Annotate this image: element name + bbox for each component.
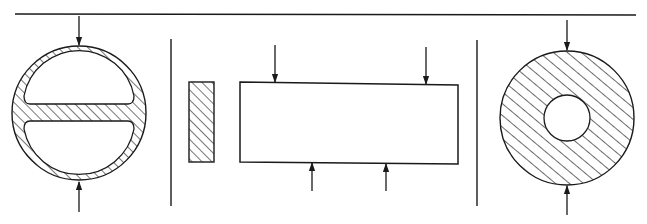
- top-rule: [15, 14, 636, 15]
- tube-with-web-section: [12, 46, 146, 180]
- diagram-canvas: [0, 0, 647, 224]
- diagram-svg: [0, 0, 647, 224]
- beam-elevation: [240, 82, 458, 164]
- thin-plate-section: [189, 82, 214, 162]
- thick-ring-section: [500, 51, 634, 185]
